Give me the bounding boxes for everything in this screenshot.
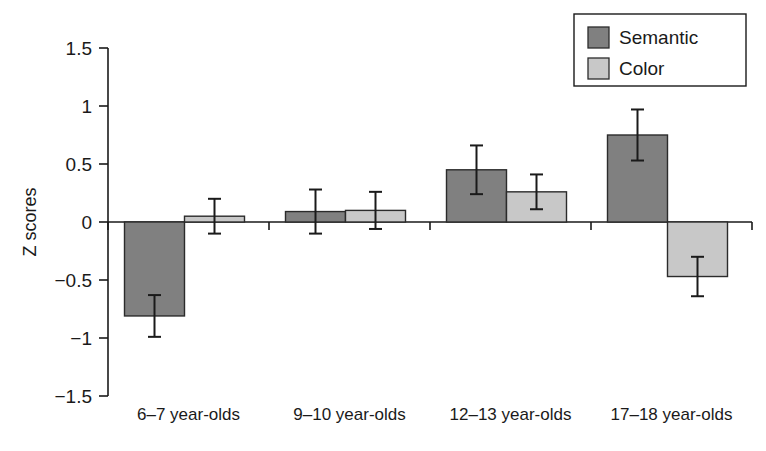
y-axis-title: Z scores	[20, 187, 40, 256]
x-axis-category-label: 12–13 year-olds	[450, 405, 572, 424]
x-axis-category-label: 9–10 year-olds	[293, 405, 405, 424]
legend-label-color: Color	[619, 58, 665, 79]
bar-chart: 1.510.50−0.5−1−1.5Z scores6–7 year-olds9…	[0, 0, 766, 451]
y-axis-tick-label: −1.5	[54, 386, 92, 407]
bar-group	[286, 190, 346, 234]
y-axis-tick-label: 1	[81, 96, 92, 117]
x-axis-category-label: 17–18 year-olds	[611, 405, 733, 424]
bar-group	[125, 222, 185, 337]
y-axis-tick-label: 0	[81, 212, 92, 233]
legend-label-semantic: Semantic	[619, 27, 698, 48]
y-axis-tick-label: −1	[70, 328, 92, 349]
figure-container: 1.510.50−0.5−1−1.5Z scores6–7 year-olds9…	[0, 0, 766, 451]
bar-group	[608, 109, 668, 222]
bar-group	[346, 192, 406, 229]
y-axis-tick-label: 0.5	[66, 154, 92, 175]
y-axis-tick-label: 1.5	[66, 38, 92, 59]
y-axis-tick-label: −0.5	[54, 270, 92, 291]
bar-group	[507, 174, 567, 222]
legend-swatch-semantic	[588, 27, 609, 48]
bar-group	[447, 145, 507, 222]
x-axis-category-label: 6–7 year-olds	[137, 405, 240, 424]
legend-swatch-color	[588, 58, 609, 79]
bar-group	[668, 222, 728, 296]
bar-group	[185, 199, 245, 234]
